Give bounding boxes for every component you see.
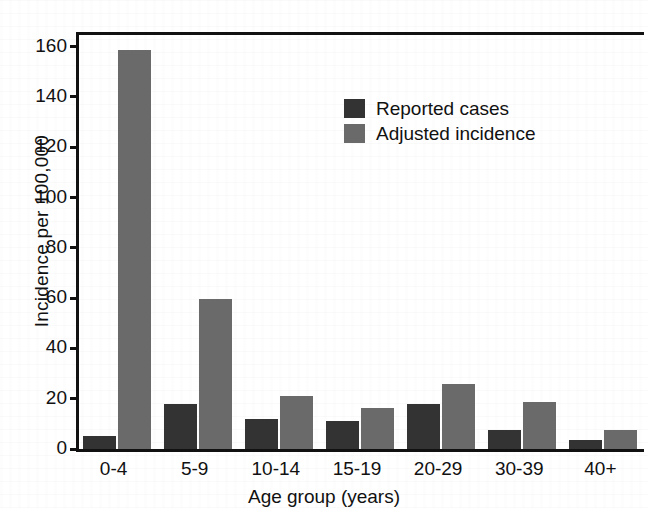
- plot-area: 020406080100120140160: [76, 32, 644, 452]
- bar-adjusted: [523, 402, 556, 449]
- y-axis-tick-label: 120: [35, 135, 70, 157]
- bar-adjusted: [442, 384, 475, 449]
- y-axis-tick-mark: [70, 95, 79, 98]
- x-axis-tick-label: 20-29: [414, 458, 463, 480]
- bar-adjusted: [118, 50, 151, 449]
- bar-group: [164, 35, 232, 449]
- y-axis-tick-label: 80: [46, 236, 70, 258]
- bar-reported: [83, 436, 116, 449]
- y-axis-tick-label: 20: [46, 387, 70, 409]
- legend-item: Reported cases: [344, 97, 536, 119]
- y-axis-tick-mark: [70, 146, 79, 149]
- bar-reported: [407, 404, 440, 449]
- bar-reported: [245, 419, 278, 449]
- y-axis-tick-label: 140: [35, 85, 70, 107]
- bar-group: [83, 35, 151, 449]
- bar-adjusted: [604, 430, 637, 449]
- x-axis-tick-label: 0-4: [100, 458, 127, 480]
- bar-group: [245, 35, 313, 449]
- bar-group: [569, 35, 637, 449]
- y-axis-tick-mark: [70, 246, 79, 249]
- y-axis-tick-mark: [70, 45, 79, 48]
- y-axis-tick-mark: [70, 347, 79, 350]
- bar-reported: [488, 430, 521, 449]
- x-axis-tick-label: 15-19: [333, 458, 382, 480]
- bar-adjusted: [199, 299, 232, 449]
- x-axis-tick-label: 40+: [584, 458, 616, 480]
- y-axis-tick-mark: [70, 196, 79, 199]
- legend-label: Adjusted incidence: [376, 124, 536, 143]
- bar-adjusted: [361, 408, 394, 449]
- x-axis-title: Age group (years): [0, 486, 648, 508]
- x-axis-tick-label: 10-14: [252, 458, 301, 480]
- bar-chart-figure: Incidence per 100,000 020406080100120140…: [0, 0, 648, 508]
- legend-label: Reported cases: [376, 99, 509, 118]
- chart-legend: Reported casesAdjusted incidence: [344, 97, 536, 147]
- y-axis-tick-label: 40: [46, 336, 70, 358]
- bar-reported: [164, 404, 197, 449]
- y-axis-tick-label: 160: [35, 35, 70, 57]
- legend-swatch: [344, 99, 365, 118]
- y-axis-tick-label: 0: [56, 437, 70, 459]
- bar-adjusted: [280, 396, 313, 449]
- x-axis-tick-label: 30-39: [495, 458, 544, 480]
- legend-item: Adjusted incidence: [344, 122, 536, 144]
- y-axis-tick-label: 100: [35, 186, 70, 208]
- bar-reported: [569, 440, 602, 449]
- y-axis-tick-mark: [70, 297, 79, 300]
- y-axis-tick-mark: [70, 448, 79, 451]
- legend-swatch: [344, 124, 365, 143]
- y-axis-tick-mark: [70, 397, 79, 400]
- y-axis-tick-label: 60: [46, 286, 70, 308]
- x-axis-tick-label: 5-9: [181, 458, 208, 480]
- bar-reported: [326, 421, 359, 449]
